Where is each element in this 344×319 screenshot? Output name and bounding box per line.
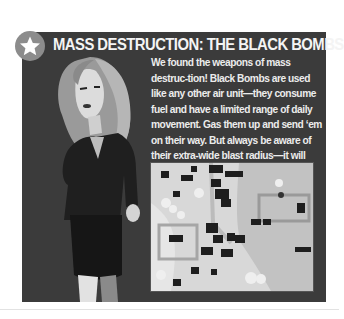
page-divider xyxy=(0,309,339,310)
panel-title: MASS DESTRUCTION: THE BLACK BOMBS xyxy=(53,35,344,54)
star-badge xyxy=(15,31,45,61)
woman-in-dark-suit-character xyxy=(40,55,150,302)
tactical-map-screenshot xyxy=(150,162,314,292)
star-icon xyxy=(19,35,41,57)
